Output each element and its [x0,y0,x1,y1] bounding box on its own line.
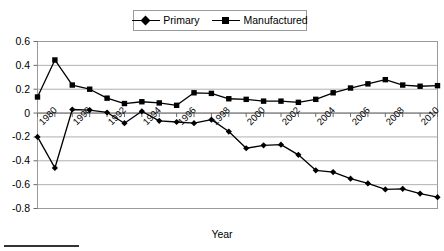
y-axis-tick-label: 0.6 [0,36,30,47]
chart-container: Primary Manufactured 0.60.40.20-0.2-0.4-… [0,0,444,251]
plot-area [0,0,444,251]
y-axis-tick-label: -0.4 [0,155,30,166]
y-axis-tick-label: -0.6 [0,179,30,190]
y-axis-tick-label: 0.4 [0,60,30,71]
footer-rule [4,245,79,247]
x-axis-title: Year [0,228,444,240]
y-axis-tick-label: -0.2 [0,131,30,142]
y-axis-tick-label: 0.2 [0,84,30,95]
y-axis-tick-label: -0.8 [0,203,30,214]
y-axis-tick-label: 0 [0,108,30,119]
